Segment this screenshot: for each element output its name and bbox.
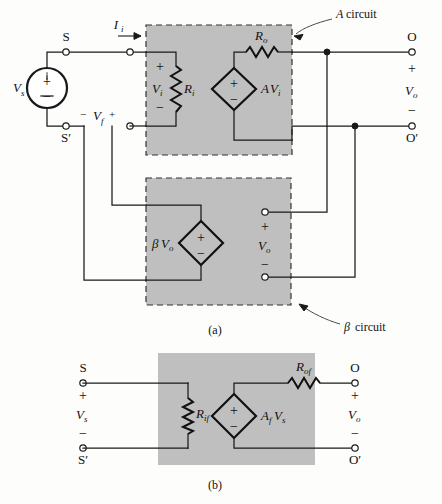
- caption-a: (a): [208, 323, 221, 337]
- terminal-s-label: S: [62, 29, 69, 44]
- beta-output-terminal-top[interactable]: [262, 209, 268, 215]
- a-circuit-annotation-text: circuit: [346, 7, 377, 21]
- source-minus-sign: −: [43, 89, 51, 104]
- vf-plus-sign: +: [109, 108, 115, 120]
- avi-plus-sign: +: [230, 76, 238, 91]
- caption-b: (b): [208, 478, 222, 492]
- vi-minus-sign: −: [156, 100, 164, 115]
- vi-plus-sign: +: [156, 59, 164, 74]
- beta-output-terminal-bottom[interactable]: [262, 274, 268, 280]
- avi-label-gain: A: [260, 81, 269, 96]
- a-circuit-annotation-italic: A: [335, 7, 344, 21]
- b-terminal-o-prime-label: O′: [349, 452, 361, 467]
- terminal-o-prime[interactable]: [409, 123, 415, 129]
- beta-vo-port-label-sub: o: [266, 245, 271, 255]
- resistor-ro-label: R: [254, 28, 263, 43]
- vo-minus-sign: −: [408, 103, 416, 118]
- terminal-s-prime-label: S′: [61, 130, 71, 145]
- b-source-label-gain: A: [260, 408, 269, 423]
- terminal-o-prime-label: O′: [406, 130, 418, 145]
- terminal-o[interactable]: [409, 49, 415, 55]
- b-vs-label-sub: s: [84, 414, 88, 424]
- b-source-label-v-sub: s: [282, 415, 286, 425]
- b-terminal-o[interactable]: [352, 380, 358, 386]
- beta-circuit-annotation-symbol: β: [343, 320, 350, 334]
- source-label-vs-sub: s: [21, 88, 25, 98]
- input-current-label: I: [113, 17, 119, 32]
- terminal-s[interactable]: [63, 49, 69, 55]
- b-terminal-s-label: S: [79, 360, 86, 375]
- beta-vo-port-plus-sign: +: [261, 219, 269, 234]
- beta-circuit-annotation-text: circuit: [355, 320, 386, 334]
- b-vs-plus-sign: +: [79, 388, 87, 403]
- beta-vo-minus-sign: −: [197, 246, 205, 261]
- vf-minus-sign: −: [80, 108, 86, 120]
- resistor-ro-label-sub: o: [263, 35, 268, 45]
- b-source-minus-sign: −: [230, 419, 238, 434]
- b-terminal-o-label: O: [350, 360, 359, 375]
- input-current-label-sub: i: [121, 24, 124, 34]
- a-circuit-input-terminal-top[interactable]: [127, 49, 133, 55]
- b-vo-plus-sign: +: [351, 388, 359, 403]
- feedback-amplifier-figure: + − V s S S′ I i − V f + R i + V i − + −…: [0, 0, 442, 504]
- beta-vo-port-minus-sign: −: [261, 257, 269, 272]
- vo-label-sub: o: [413, 90, 418, 100]
- avi-minus-sign: −: [230, 92, 238, 107]
- resistor-rif-label: R: [195, 406, 204, 421]
- b-vo-label-sub: o: [356, 414, 361, 424]
- resistor-ri-label: R: [183, 81, 192, 96]
- beta-vo-label-sub: o: [169, 243, 174, 253]
- vo-plus-sign: +: [408, 61, 416, 76]
- b-vo-minus-sign: −: [351, 426, 359, 441]
- beta-vo-label-beta: β: [151, 236, 159, 251]
- circuit-diagram-svg: + − V s S S′ I i − V f + R i + V i − + −…: [0, 0, 442, 504]
- resistor-rof-label: R: [295, 359, 304, 374]
- b-terminal-s-prime-label: S′: [78, 452, 88, 467]
- terminal-o-label: O: [407, 29, 416, 44]
- b-source-plus-sign: +: [230, 403, 238, 418]
- source-plus-sign: +: [43, 74, 51, 89]
- terminal-s-prime[interactable]: [63, 123, 69, 129]
- b-terminal-o-prime[interactable]: [352, 445, 358, 451]
- b-vs-minus-sign: −: [79, 426, 87, 441]
- vf-label-sub: f: [101, 116, 105, 126]
- beta-vo-plus-sign: +: [197, 230, 205, 245]
